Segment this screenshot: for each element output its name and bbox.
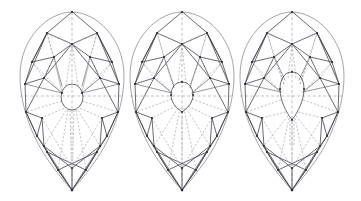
figure-3-pear-large-pear-table (240, 11, 344, 192)
facet-diagram-svg (0, 0, 361, 201)
figure-1-pear-round-table (20, 11, 124, 192)
figure-board (0, 0, 361, 201)
figure-2-pear-small-pear-table (130, 11, 234, 192)
